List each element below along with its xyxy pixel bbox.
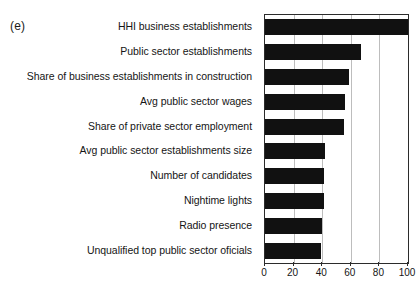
bar — [265, 193, 324, 209]
bar-row — [265, 143, 408, 159]
bar — [265, 143, 325, 159]
category-label: Nightime lights — [0, 188, 258, 213]
category-label: Unqualified top public sector oficials — [0, 237, 258, 262]
x-tick — [350, 262, 351, 266]
x-tick-label: 60 — [344, 267, 355, 278]
category-label: Avg public sector establishments size — [0, 138, 258, 163]
bar-row — [265, 19, 408, 35]
bar-row — [265, 168, 408, 184]
category-label: Share of business establishments in cons… — [0, 64, 258, 89]
plot-area — [264, 14, 409, 264]
bar-row — [265, 119, 408, 135]
x-tick — [264, 262, 265, 266]
bar-row — [265, 94, 408, 110]
x-tick — [321, 262, 322, 266]
bar — [265, 119, 344, 135]
category-label: Public sector establishments — [0, 39, 258, 64]
bar — [265, 44, 361, 60]
category-label: Avg public sector wages — [0, 88, 258, 113]
bar-row — [265, 69, 408, 85]
bar — [265, 168, 324, 184]
x-tick-label: 80 — [373, 267, 384, 278]
bar — [265, 69, 349, 85]
plot-inner — [265, 15, 408, 263]
category-axis-labels: HHI business establishments Public secto… — [0, 14, 258, 262]
figure-panel-e: (e) HHI business establishments Public s… — [0, 0, 420, 304]
bar-row — [265, 218, 408, 234]
bar — [265, 243, 321, 259]
x-tick — [407, 262, 408, 266]
cropped-title-remnant — [120, 0, 330, 5]
x-tick-label: 100 — [399, 267, 416, 278]
bar-row — [265, 193, 408, 209]
x-tick — [293, 262, 294, 266]
x-tick-label: 40 — [316, 267, 327, 278]
bar-row — [265, 44, 408, 60]
category-label: Number of candidates — [0, 163, 258, 188]
category-label: Share of private sector employment — [0, 113, 258, 138]
x-tick — [378, 262, 379, 266]
x-axis: 020406080100 — [264, 262, 409, 292]
bar — [265, 94, 345, 110]
bar — [265, 19, 408, 35]
x-tick-label: 20 — [287, 267, 298, 278]
bar — [265, 218, 322, 234]
bar-series — [265, 15, 408, 263]
bar-row — [265, 243, 408, 259]
category-label: Radio presence — [0, 212, 258, 237]
category-label: HHI business establishments — [0, 14, 258, 39]
x-tick-label: 0 — [261, 267, 267, 278]
